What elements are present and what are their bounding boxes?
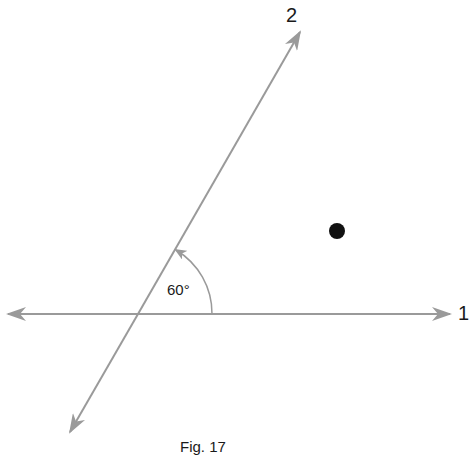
line-2-label: 2	[286, 4, 297, 27]
point-dot	[329, 223, 345, 239]
figure-caption: Fig. 17	[180, 438, 226, 455]
line-1-label: 1	[458, 302, 469, 325]
line-2	[70, 32, 300, 432]
angle-label: 60°	[167, 281, 190, 298]
